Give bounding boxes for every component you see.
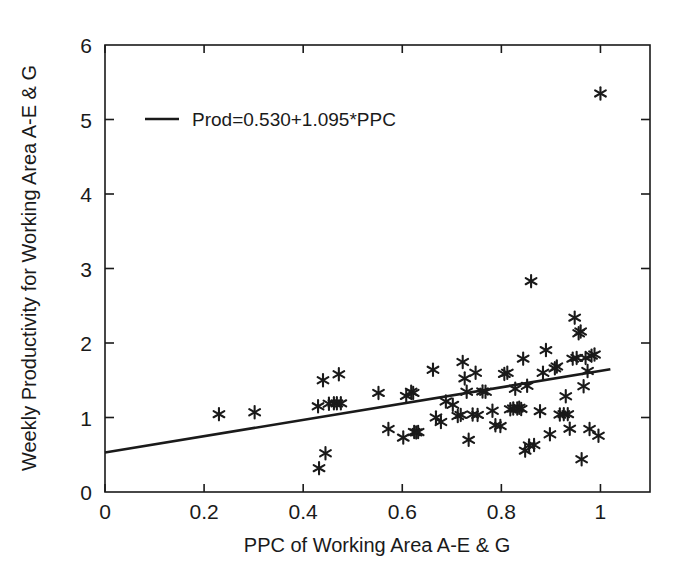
data-point	[457, 356, 468, 368]
data-point	[428, 364, 439, 376]
data-point	[576, 453, 587, 465]
data-point	[541, 344, 552, 356]
data-point	[538, 367, 549, 379]
data-point	[373, 387, 384, 399]
data-point	[314, 462, 325, 474]
data-point	[333, 368, 344, 380]
data-point	[383, 423, 394, 435]
y-tick-label-5: 5	[80, 109, 92, 132]
data-point	[249, 406, 260, 418]
x-tick-label-1: 0.2	[189, 500, 218, 523]
data-point	[569, 311, 580, 323]
x-tick-label-3: 0.6	[388, 500, 417, 523]
y-tick-label-2: 2	[80, 332, 92, 355]
y-tick-label-1: 1	[80, 407, 92, 430]
data-point	[595, 87, 606, 99]
data-point	[318, 374, 329, 386]
data-point	[487, 405, 498, 417]
data-point	[560, 390, 571, 402]
scatter-plot-figure: 00.20.40.60.81 0123456 Prod=0.530+1.095*…	[0, 0, 691, 583]
y-axis-title: Weekly Productivity for Working Area A-E…	[18, 65, 40, 471]
data-point	[463, 434, 474, 446]
data-point	[582, 365, 593, 377]
y-axis-tick-marks	[105, 120, 650, 418]
data-point	[320, 447, 331, 459]
data-point	[470, 367, 481, 379]
data-point	[214, 408, 225, 420]
scatter-markers	[214, 87, 606, 474]
y-tick-label-4: 4	[80, 183, 92, 206]
legend-label: Prod=0.530+1.095*PPC	[192, 109, 396, 130]
data-point	[518, 352, 529, 364]
data-point	[535, 405, 546, 417]
data-point	[564, 422, 575, 434]
data-point	[526, 275, 537, 287]
y-axis-tick-labels: 0123456	[80, 34, 92, 504]
y-tick-label-3: 3	[80, 258, 92, 281]
x-tick-label-2: 0.4	[289, 500, 319, 523]
x-tick-label-5: 1	[595, 500, 607, 523]
data-point	[313, 400, 324, 412]
x-axis-tick-labels: 00.20.40.60.81	[99, 500, 606, 523]
chart-canvas: 00.20.40.60.81 0123456 Prod=0.530+1.095*…	[0, 0, 691, 583]
x-tick-label-4: 0.8	[487, 500, 516, 523]
data-point	[459, 372, 470, 384]
data-point	[578, 380, 589, 392]
y-tick-label-0: 0	[80, 481, 92, 504]
x-tick-label-0: 0	[99, 500, 111, 523]
data-point	[545, 428, 556, 440]
data-point	[398, 431, 409, 443]
y-tick-label-6: 6	[80, 34, 92, 57]
x-axis-title: PPC of Working Area A-E & G	[244, 534, 510, 556]
